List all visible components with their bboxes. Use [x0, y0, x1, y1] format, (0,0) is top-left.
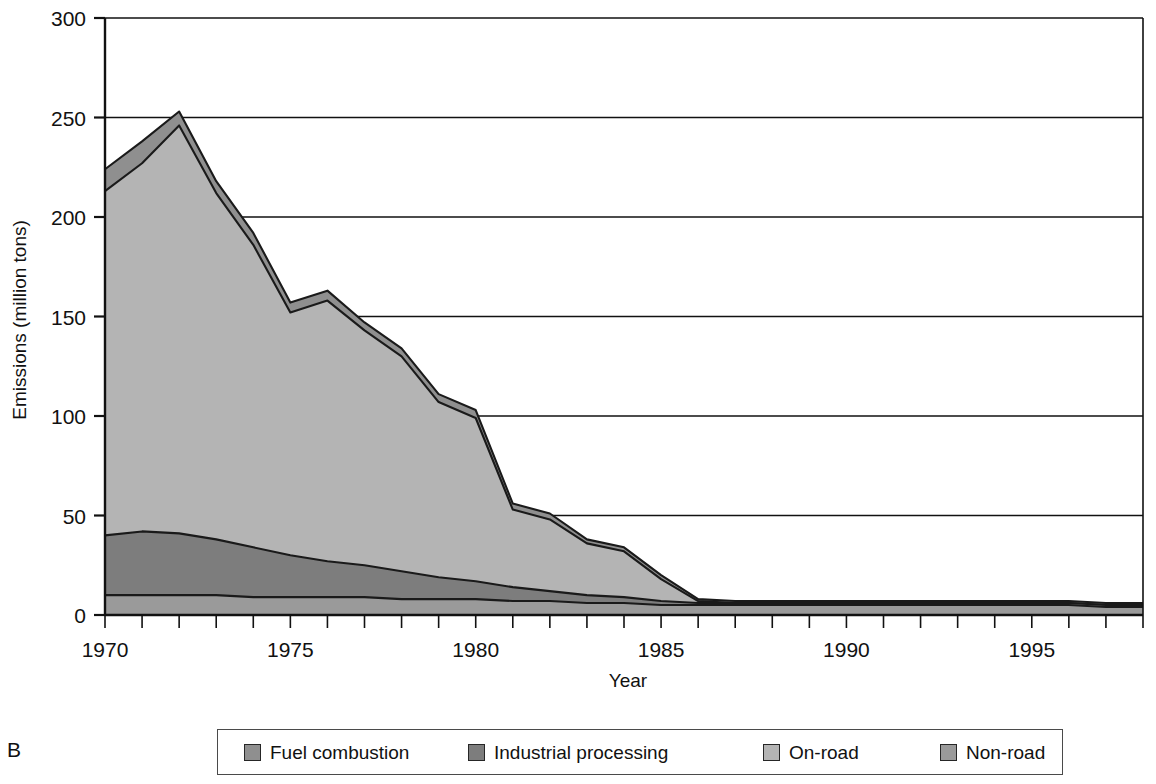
- y-tick-label: 250: [51, 107, 86, 130]
- y-tick-label: 300: [51, 7, 86, 30]
- legend-label-non-road: Non-road: [966, 743, 1045, 762]
- stacked-area-chart: 050100150200250300 197019751980198519901…: [0, 0, 1156, 784]
- legend-swatch-on-road: [763, 744, 780, 761]
- legend-swatch-industrial-processing: [468, 744, 485, 761]
- legend-item-industrial-processing: Industrial processing: [468, 743, 668, 762]
- y-tick-label: 100: [51, 405, 86, 428]
- figure-panel-b: 050100150200250300 197019751980198519901…: [0, 0, 1156, 784]
- legend-label-fuel-combustion: Fuel combustion: [270, 743, 409, 762]
- legend-label-on-road: On-road: [789, 743, 859, 762]
- x-tick-label: 1990: [823, 638, 870, 661]
- x-axis-ticks: 197019751980198519901995: [82, 615, 1143, 661]
- y-axis-title: Emissions (million tons): [9, 220, 30, 420]
- area-on-road: [105, 125, 1143, 605]
- chart-legend: Fuel combustion Industrial processing On…: [217, 729, 1063, 775]
- x-tick-label: 1995: [1008, 638, 1055, 661]
- y-tick-label: 200: [51, 206, 86, 229]
- legend-item-fuel-combustion: Fuel combustion: [244, 743, 409, 762]
- y-tick-label: 150: [51, 306, 86, 329]
- area-series-group: [105, 112, 1143, 615]
- x-tick-label: 1980: [452, 638, 499, 661]
- x-tick-label: 1970: [82, 638, 129, 661]
- legend-label-industrial-processing: Industrial processing: [494, 743, 668, 762]
- x-tick-label: 1985: [638, 638, 685, 661]
- y-axis-ticks: 050100150200250300: [51, 7, 105, 627]
- legend-item-on-road: On-road: [763, 743, 859, 762]
- legend-swatch-non-road: [940, 744, 957, 761]
- x-tick-label: 1975: [267, 638, 314, 661]
- y-tick-label: 0: [74, 604, 86, 627]
- y-tick-label: 50: [63, 505, 86, 528]
- legend-item-non-road: Non-road: [940, 743, 1045, 762]
- panel-label: B: [7, 738, 21, 762]
- x-axis-title: Year: [609, 670, 648, 691]
- legend-swatch-fuel-combustion: [244, 744, 261, 761]
